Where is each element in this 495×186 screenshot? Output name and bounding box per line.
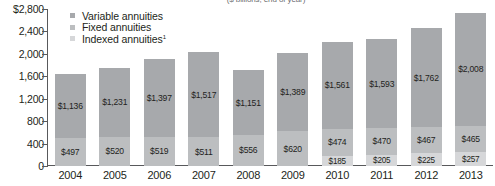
legend-swatch-icon (70, 25, 75, 30)
bar-segment-fixed[interactable]: $470 (366, 128, 397, 154)
legend-swatch-icon (70, 36, 75, 41)
bar-value-label: $1,762 (411, 73, 442, 83)
chart-legend: Variable annuitiesFixed annuitiesIndexed… (70, 10, 166, 45)
y-axis-tick-label: 1,200 (19, 93, 44, 105)
bar-segment-variable[interactable]: $1,593 (366, 39, 397, 128)
legend-label: Fixed annuities (82, 21, 151, 33)
y-axis-tick-label: $2,800 (13, 3, 44, 15)
bar-value-label: $511 (188, 147, 219, 157)
chart-subtitle: ($ billions, end of year) (186, 0, 346, 4)
bar-segment-variable[interactable]: $1,397 (144, 59, 175, 137)
legend-label: Variable annuities (82, 10, 163, 22)
x-axis-label: 2006 (137, 169, 182, 181)
y-axis-tick-mark (42, 9, 48, 10)
legend-item[interactable]: Indexed annuities1 (70, 33, 166, 45)
y-axis-tick-mark (42, 54, 48, 55)
bar-value-label: $556 (233, 145, 264, 155)
y-axis-tick-label: 2,400 (19, 25, 44, 37)
bar-value-label: $185 (322, 156, 353, 165)
bar-segment-variable[interactable]: $1,389 (277, 53, 308, 131)
bar-segment-indexed[interactable]: $225 (411, 153, 442, 166)
x-axis-label: 2005 (93, 169, 138, 181)
bar-group[interactable]: $556$1,151 (233, 70, 264, 166)
bar-segment-fixed[interactable]: $519 (144, 137, 175, 166)
bar-segment-fixed[interactable]: $497 (55, 138, 86, 166)
bar-segment-variable[interactable]: $1,231 (99, 68, 130, 137)
x-axis-label: 2011 (360, 169, 405, 181)
bar-segment-variable[interactable]: $2,008 (455, 13, 486, 126)
bar-segment-fixed[interactable]: $465 (455, 126, 486, 152)
bar-group[interactable]: $185$474$1,561 (322, 42, 353, 166)
x-axis-label: 2007 (182, 169, 227, 181)
annuity-assets-stacked-bar-chart: ($ billions, end of year) 04008001,2001,… (0, 0, 495, 186)
bar-segment-fixed[interactable]: $620 (277, 131, 308, 166)
bar-segment-fixed[interactable]: $474 (322, 129, 353, 156)
bar-group[interactable]: $205$470$1,593 (366, 39, 397, 166)
legend-label: Indexed annuities1 (82, 33, 166, 45)
bar-group[interactable]: $497$1,136 (55, 74, 86, 166)
bar-group[interactable]: $520$1,231 (99, 68, 130, 166)
bar-group[interactable]: $511$1,517 (188, 52, 219, 166)
y-axis: 04008001,2001,6002,0002,400$2,800 (0, 0, 46, 186)
bar-segment-fixed[interactable]: $556 (233, 135, 264, 166)
bar-value-label: $1,561 (322, 80, 353, 90)
y-axis-tick-label: 2,000 (19, 48, 44, 60)
bar-value-label: $1,593 (366, 79, 397, 89)
bar-segment-variable[interactable]: $1,136 (55, 74, 86, 138)
bar-value-label: $1,517 (188, 90, 219, 100)
bar-value-label: $520 (99, 146, 130, 156)
bar-value-label: $519 (144, 146, 175, 156)
y-axis-tick-mark (42, 99, 48, 100)
legend-item[interactable]: Fixed annuities (70, 22, 166, 34)
y-axis-tick-mark (42, 31, 48, 32)
bar-segment-indexed[interactable]: $185 (322, 156, 353, 166)
bar-value-label: $467 (411, 135, 442, 145)
y-axis-tick-label: 1,600 (19, 70, 44, 82)
x-axis-labels: 2004200520062007200820092010201120122013 (48, 167, 493, 186)
bar-segment-variable[interactable]: $1,762 (411, 28, 442, 127)
bar-value-label: $225 (411, 155, 442, 164)
x-axis-label: 2010 (315, 169, 360, 181)
bar-value-label: $1,397 (144, 93, 175, 103)
bar-value-label: $620 (277, 144, 308, 154)
legend-swatch-icon (70, 13, 75, 18)
bar-segment-variable[interactable]: $1,561 (322, 42, 353, 130)
x-axis-label: 2009 (271, 169, 316, 181)
bar-value-label: $205 (366, 156, 397, 165)
x-axis-label: 2013 (449, 169, 494, 181)
y-axis-tick-mark (42, 166, 48, 167)
legend-footnote-marker: 1 (163, 33, 166, 39)
bar-segment-indexed[interactable]: $257 (455, 152, 486, 166)
x-axis-label: 2004 (48, 169, 93, 181)
bar-value-label: $474 (322, 137, 353, 147)
y-axis-tick-mark (42, 144, 48, 145)
bar-value-label: $1,231 (99, 97, 130, 107)
bar-value-label: $497 (55, 147, 86, 157)
bar-group[interactable]: $257$465$2,008 (455, 13, 486, 166)
bar-value-label: $257 (455, 154, 486, 163)
x-axis-label: 2008 (226, 169, 271, 181)
bar-value-label: $2,008 (455, 64, 486, 74)
bar-segment-fixed[interactable]: $467 (411, 127, 442, 153)
bar-value-label: $465 (455, 134, 486, 144)
x-axis-label: 2012 (404, 169, 449, 181)
bar-segment-fixed[interactable]: $520 (99, 137, 130, 166)
bar-value-label: $1,136 (55, 101, 86, 111)
bar-segment-variable[interactable]: $1,517 (188, 52, 219, 137)
bar-group[interactable]: $519$1,397 (144, 59, 175, 166)
bar-segment-fixed[interactable]: $511 (188, 137, 219, 166)
bar-value-label: $1,389 (277, 87, 308, 97)
bar-value-label: $470 (366, 136, 397, 146)
bar-value-label: $1,151 (233, 98, 264, 108)
bar-segment-variable[interactable]: $1,151 (233, 70, 264, 135)
y-axis-tick-mark (42, 76, 48, 77)
bar-group[interactable]: $620$1,389 (277, 53, 308, 166)
y-axis-tick-mark (42, 121, 48, 122)
bar-group[interactable]: $225$467$1,762 (411, 28, 442, 166)
legend-item[interactable]: Variable annuities (70, 10, 166, 22)
bar-segment-indexed[interactable]: $205 (366, 155, 397, 166)
